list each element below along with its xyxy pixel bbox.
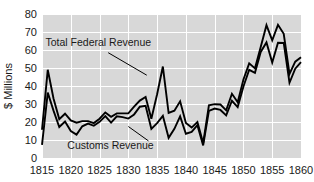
y-tick-label: 10 xyxy=(25,134,37,146)
x-tick-label: 1820 xyxy=(59,164,83,176)
y-tick-label: 30 xyxy=(25,98,37,110)
y-tick-label: 20 xyxy=(25,116,37,128)
x-tick-label: 1815 xyxy=(30,164,54,176)
x-tick-label: 1845 xyxy=(202,164,226,176)
x-tick-label: 1860 xyxy=(289,164,313,176)
x-tick-label: 1835 xyxy=(145,164,169,176)
y-tick-label: 0 xyxy=(31,152,37,164)
y-tick-label: 70 xyxy=(25,26,37,38)
annotation-label-0: Total Federal Revenue xyxy=(45,36,151,48)
y-axis-tick-labels: 01020304050607080 xyxy=(25,8,37,164)
y-tick-label: 80 xyxy=(25,8,37,20)
x-tick-label: 1840 xyxy=(174,164,198,176)
y-tick-label: 40 xyxy=(25,80,37,92)
y-tick-label: 60 xyxy=(25,44,37,56)
chart-canvas: Total Federal RevenueCustoms Revenue 181… xyxy=(0,0,314,182)
annotation-label-1: Customs Revenue xyxy=(67,139,154,151)
x-tick-label: 1855 xyxy=(260,164,284,176)
x-tick-label: 1850 xyxy=(231,164,255,176)
revenue-chart: Total Federal RevenueCustoms Revenue 181… xyxy=(0,0,314,182)
y-tick-label: 50 xyxy=(25,62,37,74)
y-axis-title: $ Millions xyxy=(2,63,14,109)
x-tick-label: 1825 xyxy=(87,164,111,176)
x-tick-label: 1830 xyxy=(116,164,140,176)
